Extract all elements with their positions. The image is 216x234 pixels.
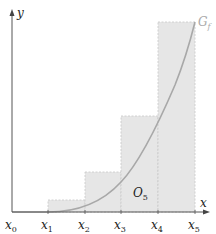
rect-4 (158, 22, 195, 212)
upper-sum-diagram: y x Gf O5 x0 x1 x2 x3 x4 x5 (0, 0, 216, 234)
tick-label-x3: x3 (114, 218, 126, 234)
y-axis-label: y (16, 6, 24, 20)
tick-labels: x0 x1 x2 x3 x4 x5 (5, 218, 200, 234)
tick-label-x0: x0 (5, 218, 17, 234)
tick-label-x5: x5 (188, 218, 200, 234)
x-axis-arrow-icon (203, 210, 210, 215)
x-axis-label: x (200, 196, 207, 210)
tick-label-x1: x1 (41, 218, 53, 234)
rect-2 (85, 172, 121, 212)
tick-label-x4: x4 (151, 218, 163, 234)
tick-label-x2: x2 (78, 218, 90, 234)
curve-label: Gf (198, 15, 213, 31)
upper-sum-rectangles (48, 22, 195, 212)
y-axis-arrow-icon (10, 9, 15, 16)
